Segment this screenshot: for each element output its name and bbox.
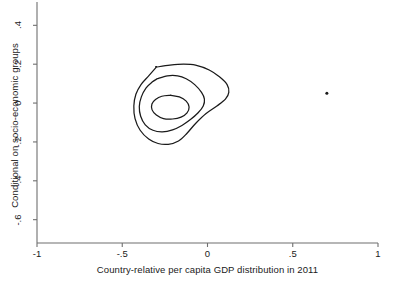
y-axis-ticks [33,25,37,219]
x-tick-label: .5 [273,248,313,259]
x-tick-label: 1 [358,248,393,259]
x-tick-label: -.5 [102,248,142,259]
contour-plot-figure: Conditional on socio-economic groups Cou… [0,0,393,282]
scatter-points [325,92,328,95]
middle-contour [139,75,204,131]
inner-contour [152,95,190,119]
y-tick-label: -.2 [6,136,30,148]
y-tick-label: .2 [6,58,30,70]
y-tick-label: 0 [6,97,30,109]
y-tick-label: -.6 [6,214,30,226]
x-axis-title: Country-relative per capita GDP distribu… [37,264,378,275]
x-tick-label: -1 [17,248,57,259]
y-tick-label: .4 [6,19,30,31]
contour-lines [134,64,229,144]
x-tick-label: 0 [188,248,228,259]
x-axis-ticks [37,243,378,247]
plot-canvas [0,0,393,282]
isolated-point [325,92,328,95]
y-tick-label: -.4 [6,175,30,187]
